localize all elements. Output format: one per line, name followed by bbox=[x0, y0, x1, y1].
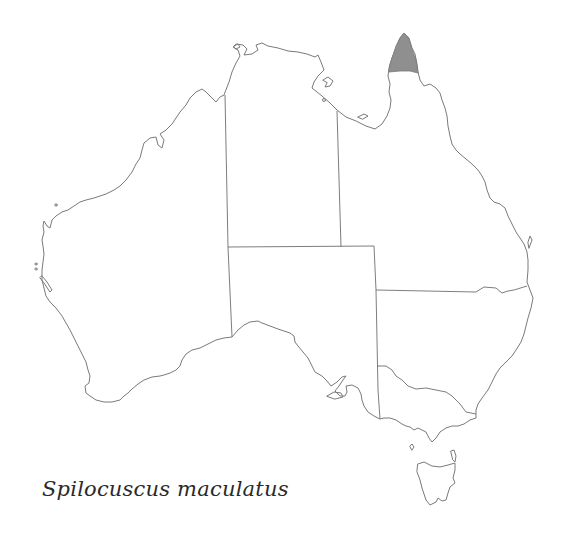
mainland-coastline bbox=[42, 33, 533, 442]
border-nsw-vic bbox=[377, 366, 476, 414]
distribution-map: Spilocuscus maculatus bbox=[0, 0, 562, 537]
border-nt-qld bbox=[337, 111, 341, 247]
border-qld-nsw bbox=[376, 286, 527, 293]
fraser-island bbox=[528, 236, 532, 248]
king-island bbox=[410, 444, 414, 450]
tasmania bbox=[417, 462, 455, 505]
barrow-island bbox=[55, 204, 57, 206]
border-sa-qld-nsw bbox=[374, 246, 380, 419]
groote-eylandt bbox=[323, 77, 333, 87]
australia-map bbox=[0, 0, 562, 537]
species-range-cape-york bbox=[389, 33, 418, 73]
abrolhos-island-2 bbox=[35, 268, 37, 270]
mornington-island bbox=[358, 114, 368, 119]
species-name-caption: Spilocuscus maculatus bbox=[42, 477, 289, 501]
flinders-island bbox=[451, 450, 456, 462]
border-wa bbox=[225, 95, 232, 337]
border-nt-sa bbox=[228, 246, 374, 247]
abrolhos-island-1 bbox=[35, 263, 37, 265]
small-island-gulf bbox=[323, 99, 326, 102]
